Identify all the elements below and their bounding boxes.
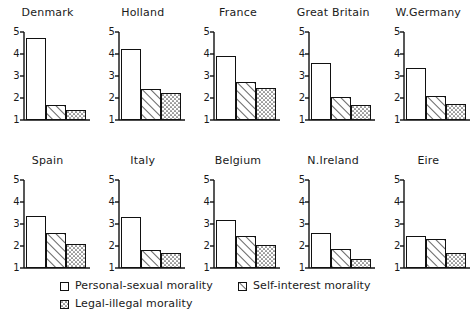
panel-title: France <box>219 6 257 19</box>
y-axis-tick-label: 2 <box>194 241 210 251</box>
y-axis-tick-label: 4 <box>99 197 115 207</box>
bar-group <box>121 32 181 120</box>
chart-panel: Spain54321 <box>0 154 95 278</box>
y-axis-tick-labels: 54321 <box>289 170 305 278</box>
y-axis-tick-label: 3 <box>194 71 210 81</box>
y-axis-tick-label: 3 <box>194 219 210 229</box>
y-axis-tick-label: 4 <box>194 49 210 59</box>
bar <box>46 105 66 120</box>
y-axis-tick-label: 5 <box>289 27 305 37</box>
plot-area: 54321 <box>4 170 92 278</box>
bar-group <box>311 180 371 268</box>
y-axis-tick-label: 1 <box>99 263 115 273</box>
y-axis-tick-labels: 54321 <box>289 22 305 130</box>
plot-area: 54321 <box>384 170 472 278</box>
chart-panel: Great Britain54321 <box>286 6 381 130</box>
bar-group <box>216 32 276 120</box>
chart-panel: Eire54321 <box>381 154 476 278</box>
legend-label: Personal-sexual morality <box>75 280 213 292</box>
panel-title: Belgium <box>215 154 262 167</box>
plot-area: 54321 <box>99 170 187 278</box>
legend-label: Self-interest morality <box>253 280 371 292</box>
bar <box>121 217 141 268</box>
chart-legend: Personal-sexual moralitySelf-interest mo… <box>60 277 460 313</box>
bar <box>216 56 236 120</box>
y-axis-tick-label: 5 <box>194 175 210 185</box>
bar <box>121 49 141 121</box>
bar <box>66 110 86 120</box>
bar-group <box>311 32 371 120</box>
y-axis-tick-label: 1 <box>99 115 115 125</box>
legend-swatch-plain-icon <box>60 282 69 291</box>
y-axis-tick-labels: 54321 <box>4 22 20 130</box>
bar <box>26 38 46 121</box>
y-axis-tick-label: 1 <box>4 115 20 125</box>
bar <box>236 236 256 268</box>
chart-panel: N.Ireland54321 <box>286 154 381 278</box>
y-axis-tick-label: 1 <box>384 115 400 125</box>
bar <box>66 244 86 268</box>
y-axis-tick-label: 4 <box>384 49 400 59</box>
y-axis-tick-label: 1 <box>384 263 400 273</box>
bar <box>256 245 276 268</box>
y-axis-tick-label: 3 <box>384 219 400 229</box>
y-axis-tick-labels: 54321 <box>99 22 115 130</box>
legend-label: Legal-illegal morality <box>75 298 193 310</box>
bar <box>446 104 466 121</box>
bar <box>311 233 331 268</box>
bar <box>26 216 46 268</box>
bar <box>446 253 466 268</box>
y-axis-tick-label: 5 <box>384 27 400 37</box>
bar <box>216 220 236 268</box>
chart-panel: Belgium54321 <box>190 154 285 278</box>
y-axis-tick-labels: 54321 <box>384 22 400 130</box>
plot-area: 54321 <box>289 170 377 278</box>
y-axis-tick-label: 2 <box>99 241 115 251</box>
y-axis-tick-label: 2 <box>289 93 305 103</box>
bar <box>406 236 426 268</box>
y-axis-tick-label: 2 <box>4 241 20 251</box>
legend-line: Legal-illegal morality <box>60 295 460 313</box>
bar-group <box>406 32 466 120</box>
chart-panel: W.Germany54321 <box>381 6 476 130</box>
bar-group <box>121 180 181 268</box>
chart-panel: Denmark54321 <box>0 6 95 130</box>
legend-swatch-hatch-icon <box>238 282 247 291</box>
legend-line: Personal-sexual moralitySelf-interest mo… <box>60 277 460 295</box>
y-axis-tick-label: 3 <box>384 71 400 81</box>
y-axis-tick-label: 1 <box>194 115 210 125</box>
y-axis-tick-label: 2 <box>194 93 210 103</box>
y-axis-tick-label: 4 <box>384 197 400 207</box>
y-axis-tick-label: 4 <box>194 197 210 207</box>
panel-row-top: Denmark54321Holland54321France54321Great… <box>0 6 476 130</box>
plot-area: 54321 <box>384 22 472 130</box>
legend-entry: Self-interest morality <box>238 280 371 292</box>
bar <box>256 88 276 120</box>
y-axis-tick-label: 5 <box>194 27 210 37</box>
y-axis-tick-label: 4 <box>289 49 305 59</box>
plot-area: 54321 <box>289 22 377 130</box>
y-axis-tick-label: 1 <box>289 263 305 273</box>
y-axis-tick-label: 1 <box>289 115 305 125</box>
bar <box>161 93 181 121</box>
bar <box>236 82 256 121</box>
y-axis-tick-labels: 54321 <box>194 22 210 130</box>
plot-area: 54321 <box>4 22 92 130</box>
panel-title: Great Britain <box>297 6 370 19</box>
bar-group <box>26 32 86 120</box>
plot-area: 54321 <box>99 22 187 130</box>
bar <box>46 233 66 268</box>
y-axis-tick-label: 3 <box>4 71 20 81</box>
bar <box>331 97 351 120</box>
bar-group <box>26 180 86 268</box>
bar <box>141 89 161 120</box>
bar <box>351 105 371 120</box>
y-axis-tick-label: 5 <box>384 175 400 185</box>
y-axis-tick-labels: 54321 <box>194 170 210 278</box>
y-axis-tick-label: 4 <box>99 49 115 59</box>
bar-group <box>216 180 276 268</box>
bar <box>141 250 161 268</box>
plot-area: 54321 <box>194 170 282 278</box>
plot-area: 54321 <box>194 22 282 130</box>
y-axis-tick-label: 4 <box>4 49 20 59</box>
